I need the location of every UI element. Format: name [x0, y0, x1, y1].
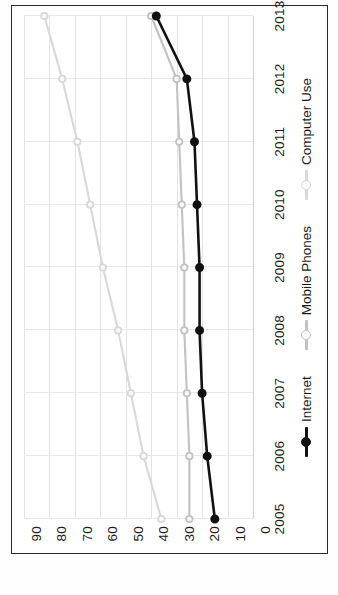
legend-line-swatch [304, 320, 307, 350]
figure-caption: FIGURE 13.2 ICT Usage per 100 Persons, T… [331, 589, 338, 595]
year-tick-2010: 2010 [272, 189, 287, 220]
data-point [158, 516, 164, 522]
data-point [74, 139, 80, 145]
rotated-figure-wrapper: 0102030405060708090 20052006200720082009… [0, 0, 338, 595]
data-point [140, 453, 146, 459]
year-tick-2011: 2011 [272, 127, 287, 157]
value-tick-0: 0 [257, 526, 272, 534]
data-point [152, 13, 159, 20]
value-tick-10: 10 [232, 526, 247, 541]
legend-item-mobile-phones[interactable]: Mobile Phones [298, 226, 313, 350]
year-tick-2006: 2006 [272, 441, 287, 472]
data-point [114, 327, 120, 333]
data-point [181, 264, 187, 270]
value-tick-70: 70 [79, 526, 94, 541]
value-tick-80: 80 [53, 526, 68, 541]
data-point [195, 327, 202, 334]
legend-label: Mobile Phones [298, 226, 313, 315]
data-point [211, 516, 218, 523]
value-tick-40: 40 [155, 526, 170, 541]
chart-frame: 0102030405060708090 20052006200720082009… [11, 5, 328, 554]
value-tick-60: 60 [104, 526, 119, 541]
legend-item-computer-use[interactable]: Computer Use [298, 78, 313, 200]
value-axis-tick-labels: 0102030405060708090 [24, 521, 253, 553]
series-layer [24, 16, 253, 519]
series-mobile-phones [148, 13, 193, 522]
legend-line-swatch [304, 170, 307, 200]
series-computer-use [41, 13, 164, 522]
legend-label: Computer Use [298, 78, 313, 165]
legend-marker-icon [301, 330, 311, 340]
year-tick-2013: 2013 [272, 1, 287, 32]
legend-marker-icon [301, 180, 311, 190]
data-point [203, 453, 210, 460]
data-point [183, 75, 190, 82]
legend-label: Internet [298, 376, 313, 422]
data-point [193, 201, 200, 208]
value-tick-30: 30 [181, 526, 196, 541]
plot-area [24, 16, 253, 519]
data-point [176, 139, 182, 145]
data-point [186, 516, 192, 522]
data-point [181, 327, 187, 333]
data-point [173, 76, 179, 82]
data-point [58, 76, 64, 82]
year-tick-2007: 2007 [272, 378, 287, 409]
data-point [195, 264, 202, 271]
data-point [127, 390, 133, 396]
legend-line-swatch [304, 427, 307, 457]
value-tick-50: 50 [130, 526, 145, 541]
value-tick-20: 20 [206, 526, 221, 541]
data-point [86, 202, 92, 208]
data-point [186, 453, 192, 459]
year-tick-2005: 2005 [272, 504, 287, 535]
legend-item-internet[interactable]: Internet [298, 376, 313, 457]
data-point [99, 264, 105, 270]
category-axis-tick-labels: 200520062007200820092010201120122013 [253, 16, 287, 519]
figure-page: 0102030405060708090 20052006200720082009… [0, 0, 338, 595]
year-tick-2009: 2009 [272, 252, 287, 283]
year-tick-2008: 2008 [272, 315, 287, 346]
legend-marker-icon [301, 437, 311, 447]
data-point [41, 13, 47, 19]
data-point [178, 202, 184, 208]
data-point [183, 390, 189, 396]
data-point [190, 138, 197, 145]
chart-legend: InternetMobile PhonesComputer Use [289, 16, 323, 519]
value-tick-90: 90 [28, 526, 43, 541]
data-point [198, 390, 205, 397]
year-tick-2012: 2012 [272, 64, 287, 95]
